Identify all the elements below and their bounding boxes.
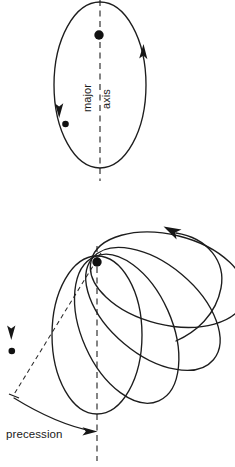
motion-arrow-left-icon [7,325,15,340]
precession-arrow-head-icon [82,427,97,435]
top-panel-group: major axis [54,0,147,181]
precession-arc-path [14,398,92,431]
star-focus-dot [92,257,101,266]
precession-figure: major axis [0,0,235,467]
orbit-ellipse-4 [80,217,235,343]
star-focus-dot [94,30,103,39]
bottom-panel-group: precession [6,217,235,461]
major-axis-label-major: major [81,84,93,112]
rotated-axis-dashed-line [13,253,101,396]
major-axis-label-axis: axis [100,89,112,109]
planet-dot [9,348,16,355]
orbital-precession-diagram: major axis [0,0,235,467]
planet-dot [62,121,69,128]
precession-label: precession [6,428,63,440]
